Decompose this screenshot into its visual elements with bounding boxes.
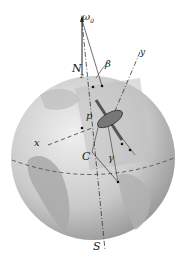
z-label: z [80,73,84,80]
south-label: S [93,241,101,252]
globe-diagram [0,0,186,263]
y-label: y [140,48,145,57]
omega-label: ω0 [82,12,94,24]
center-label: C [82,151,90,162]
p-label: p [86,111,92,121]
beta-label: β [105,59,111,69]
gamma-label: γ [108,153,114,163]
x-label: x [34,138,40,148]
